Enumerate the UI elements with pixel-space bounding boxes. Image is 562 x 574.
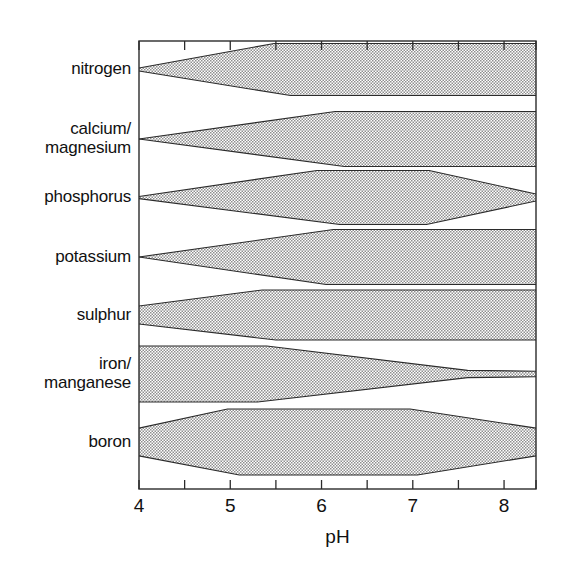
nutrient-band-potassium xyxy=(139,230,536,285)
x-tick-label: 5 xyxy=(210,495,250,517)
x-tick-label: 8 xyxy=(484,495,524,517)
nutrient-availability-chart: nitrogencalcium/magnesiumphosphoruspotas… xyxy=(0,0,562,574)
band-fill xyxy=(139,171,536,225)
category-label-line: potassium xyxy=(0,247,131,266)
nutrient-band-phosphorus xyxy=(139,171,536,225)
nutrient-band-boron xyxy=(139,409,536,475)
category-label-line: nitrogen xyxy=(0,59,131,78)
band-fill xyxy=(139,290,536,340)
x-tick-label: 4 xyxy=(119,495,159,517)
nutrient-bands-group xyxy=(139,44,536,476)
band-fill xyxy=(139,44,536,96)
x-tick-label: 7 xyxy=(393,495,433,517)
category-label-line: sulphur xyxy=(0,305,131,324)
nutrient-band-calcium-magnesium xyxy=(139,112,536,167)
nutrient-band-sulphur xyxy=(139,290,536,340)
category-label-boron: boron xyxy=(0,432,131,451)
category-label-sulphur: sulphur xyxy=(0,305,131,324)
category-label-line: iron/ xyxy=(0,354,131,373)
chart-canvas xyxy=(0,0,562,574)
band-fill xyxy=(139,112,536,167)
nutrient-band-nitrogen xyxy=(139,44,536,96)
category-label-line: calcium/ xyxy=(0,119,131,138)
category-label-line: phosphorus xyxy=(0,187,131,206)
x-tick-label: 6 xyxy=(302,495,342,517)
band-fill xyxy=(139,230,536,285)
category-label-line: magnesium xyxy=(0,138,131,157)
category-label-calcium-magnesium: calcium/magnesium xyxy=(0,119,131,157)
nutrient-band-iron-manganese xyxy=(139,346,536,402)
category-label-nitrogen: nitrogen xyxy=(0,59,131,78)
category-label-phosphorus: phosphorus xyxy=(0,187,131,206)
category-label-line: boron xyxy=(0,432,131,451)
category-label-potassium: potassium xyxy=(0,247,131,266)
category-label-line: manganese xyxy=(0,373,131,392)
x-axis-title: pH xyxy=(139,526,536,548)
category-label-iron-manganese: iron/manganese xyxy=(0,354,131,392)
